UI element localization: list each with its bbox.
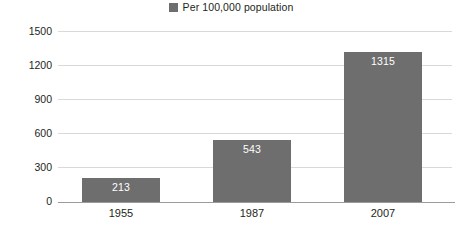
- y-tick-300: 300: [2, 162, 52, 173]
- bar-value-1987: 543: [213, 143, 291, 155]
- y-tick-1500: 1500: [2, 26, 52, 37]
- bar-chart: Per 100,000 population 1500 1200 900 600…: [0, 0, 462, 229]
- x-tick-1955: 1955: [82, 207, 160, 220]
- y-tick-600: 600: [2, 128, 52, 139]
- bar-value-1955: 213: [82, 181, 160, 193]
- y-tick-900: 900: [2, 94, 52, 105]
- x-axis-tick-labels: 1955 1987 2007: [58, 207, 452, 225]
- x-axis-line: [58, 202, 455, 203]
- bar-value-2007: 1315: [344, 55, 422, 67]
- y-tick-1200: 1200: [2, 60, 52, 71]
- bar-2007[interactable]: 1315: [344, 52, 422, 202]
- legend-color-swatch: [169, 3, 178, 12]
- y-tick-0: 0: [2, 196, 52, 207]
- bar-series: 213 543 1315: [58, 31, 452, 202]
- x-tick-1987: 1987: [213, 207, 291, 220]
- bar-1955[interactable]: 213: [82, 178, 160, 202]
- x-tick-2007: 2007: [344, 207, 422, 220]
- legend-label: Per 100,000 population: [183, 2, 294, 13]
- bar-1987[interactable]: 543: [213, 140, 291, 202]
- chart-legend: Per 100,000 population: [0, 2, 462, 13]
- y-axis-tick-labels: 1500 1200 900 600 300 0: [0, 0, 52, 229]
